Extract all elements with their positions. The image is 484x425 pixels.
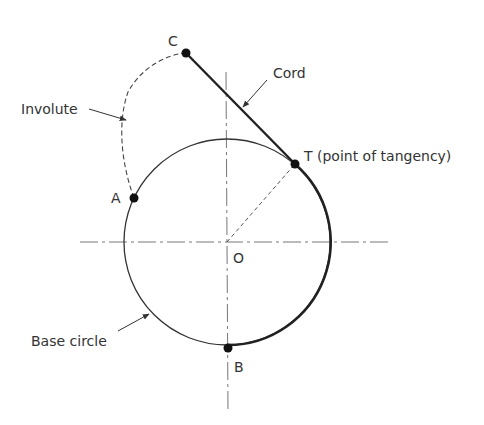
label-cord: Cord — [273, 65, 306, 81]
involute-leader-arrow — [89, 109, 126, 120]
label-C: C — [168, 33, 178, 49]
base-circle-leader-arrow — [118, 314, 149, 331]
point-B — [224, 344, 233, 353]
point-T — [291, 160, 300, 169]
label-T: T (point of tangency) — [303, 148, 451, 164]
point-C — [182, 49, 191, 58]
point-A — [130, 194, 139, 203]
label-B: B — [234, 359, 244, 375]
label-A: A — [111, 190, 121, 206]
cord-leader-arrow — [243, 80, 267, 107]
label-involute: Involute — [21, 101, 78, 117]
radius-OT — [227, 164, 295, 242]
involute-diagram: C Cord Involute T (point of tangency) A … — [0, 0, 484, 425]
involute-curve — [122, 53, 184, 198]
label-O: O — [233, 250, 244, 266]
label-base-circle: Base circle — [31, 333, 107, 349]
